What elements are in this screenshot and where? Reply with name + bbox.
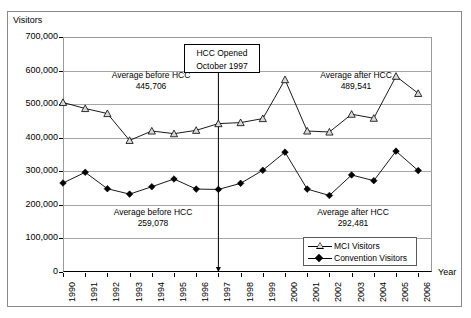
annotation-mci-after-label: Average after HCC	[296, 70, 416, 81]
legend-label-convention: Convention Visitors	[334, 253, 407, 263]
annotation-conv-after-label: Average after HCC	[288, 207, 418, 218]
hcc-opened-callout: HCC Opened October 1997	[184, 44, 260, 73]
annotation-mci-before: Average before HCC 445,706	[76, 70, 226, 92]
data-point-marker	[348, 111, 355, 118]
legend-label-mci: MCI Visitors	[334, 241, 380, 251]
chart-legend: MCI Visitors Convention Visitors	[303, 237, 417, 266]
data-point-marker	[82, 169, 89, 176]
annotation-mci-before-label: Average before HCC	[76, 70, 226, 81]
annotation-mci-before-value: 445,706	[76, 81, 226, 92]
legend-item-mci: MCI Visitors	[308, 240, 416, 252]
data-point-marker	[237, 180, 244, 187]
series-convention-visitors	[60, 148, 422, 199]
data-point-marker	[259, 115, 266, 122]
data-point-marker	[281, 76, 288, 83]
data-point-marker	[148, 127, 155, 134]
data-point-marker	[193, 127, 200, 134]
annotation-conv-before-label: Average before HCC	[78, 207, 228, 218]
data-point-marker	[104, 185, 111, 192]
data-point-marker	[149, 183, 156, 190]
annotation-conv-after-value: 292,481	[288, 218, 418, 229]
x-axis-title: Year	[438, 267, 456, 277]
diamond-marker-icon	[308, 253, 332, 263]
data-point-marker	[60, 180, 67, 187]
hcc-marker-arrow	[216, 267, 221, 272]
data-point-marker	[126, 191, 133, 198]
callout-line-1: HCC Opened	[185, 47, 259, 60]
annotation-mci-after: Average after HCC 489,541	[296, 70, 416, 92]
annotation-conv-before: Average before HCC 259,078	[78, 207, 228, 229]
legend-item-convention: Convention Visitors	[308, 252, 416, 264]
chart-screenshot: Visitors 700,000600,000500,000400,000300…	[0, 0, 471, 318]
data-point-marker	[371, 177, 378, 184]
data-point-marker	[171, 176, 178, 183]
data-point-marker	[304, 186, 311, 193]
series-line	[63, 151, 418, 195]
data-point-marker	[59, 99, 66, 106]
annotation-conv-after: Average after HCC 292,481	[288, 207, 418, 229]
data-point-marker	[215, 186, 222, 193]
annotation-conv-before-value: 259,078	[78, 218, 228, 229]
data-point-marker	[193, 186, 200, 193]
triangle-marker-icon	[308, 241, 332, 251]
annotation-mci-after-value: 489,541	[296, 81, 416, 92]
